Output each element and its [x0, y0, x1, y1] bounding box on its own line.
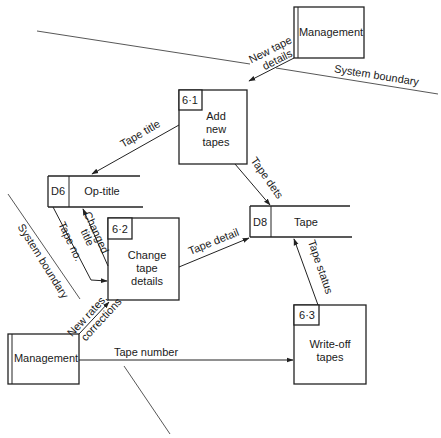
- process-label-line: tape: [136, 262, 157, 274]
- process-number: 6·2: [112, 223, 128, 235]
- entity-label: Management: [299, 26, 363, 38]
- data-store-d6[interactable]: D6 Op-title: [48, 176, 143, 207]
- system-boundary-top: System boundary: [37, 31, 438, 94]
- process-label-line: details: [131, 275, 163, 287]
- flow-tape-number[interactable]: Tape number: [79, 346, 293, 360]
- flow-label-line: Tape dets: [249, 155, 286, 201]
- flow-label-line: Tape detail: [187, 226, 241, 257]
- flow-label-line: Tape title: [118, 117, 162, 149]
- process-6-3[interactable]: 6·3 Write-off tapes: [294, 305, 366, 384]
- process-label-line: Change: [128, 249, 167, 261]
- entity-label: Management: [14, 352, 78, 364]
- data-store-label: Tape: [294, 216, 318, 228]
- flow-new-rates-corrections[interactable]: New rates, corrections: [65, 292, 124, 343]
- data-flow-diagram: System boundary System boundary Manageme…: [0, 0, 441, 438]
- data-store-code: D6: [51, 185, 65, 197]
- process-label-line: tapes: [317, 351, 344, 363]
- flow-label-line: Tape number: [114, 346, 179, 358]
- process-number: 6·3: [299, 309, 315, 321]
- data-store-d8[interactable]: D8 Tape: [250, 206, 352, 237]
- data-store-code: D8: [253, 216, 267, 228]
- process-number: 6·1: [182, 94, 198, 106]
- flow-new-tape-details[interactable]: New tape details: [247, 34, 295, 81]
- process-6-1[interactable]: 6·1 Add new tapes: [179, 90, 247, 164]
- system-boundary-bottom: [124, 366, 170, 434]
- process-label-line: tapes: [203, 136, 230, 148]
- flow-label-line: Tape status: [306, 238, 336, 296]
- flow-tape-title[interactable]: Tape title: [92, 117, 179, 174]
- flow-tape-detail[interactable]: Tape detail: [179, 226, 249, 267]
- process-6-2[interactable]: 6·2 Change tape details: [108, 218, 179, 300]
- external-entity-management-top[interactable]: Management: [294, 7, 364, 58]
- process-label-line: Add: [206, 110, 226, 122]
- flow-label-line: Tape no.: [56, 220, 85, 263]
- flow-tape-status[interactable]: Tape status: [294, 238, 336, 305]
- external-entity-management-bottom[interactable]: Management: [8, 334, 79, 384]
- process-label-line: new: [206, 123, 226, 135]
- data-store-label: Op-title: [84, 185, 119, 197]
- process-label-line: Write-off: [309, 338, 351, 350]
